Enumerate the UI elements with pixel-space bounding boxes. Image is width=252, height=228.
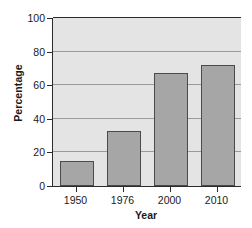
bar-1950 [60,161,94,186]
y-tick-label-40: 40 [22,113,45,125]
x-axis-title: Year [52,209,240,221]
x-tick-label-2000: 2000 [158,194,181,206]
y-tick-label-80: 80 [22,46,45,58]
x-tick-mark-1950 [76,187,77,192]
x-tick-mark-1976 [123,187,124,192]
plot-area [52,18,241,187]
y-tick-label-60: 60 [22,79,45,91]
bars-container [53,18,241,186]
x-tick-mark-2010 [217,187,218,192]
x-axis-tick-labels: 1950197620002010 [52,194,240,208]
x-tick-label-1950: 1950 [64,194,87,206]
x-tick-mark-2000 [170,187,171,192]
y-tick-label-0: 0 [22,180,45,192]
x-tick-label-2010: 2010 [205,194,228,206]
x-tick-label-1976: 1976 [111,194,134,206]
y-tick-label-20: 20 [22,146,45,158]
x-axis-tick-marks [52,187,240,193]
bar-2000 [154,73,188,186]
bar-2010 [201,65,235,186]
y-tick-label-100: 100 [22,12,45,24]
bar-1976 [107,131,141,186]
bar-chart-figure: Percentage 020406080100 1950197620002010… [0,0,252,228]
y-axis-tick-labels: 020406080100 [22,0,45,228]
